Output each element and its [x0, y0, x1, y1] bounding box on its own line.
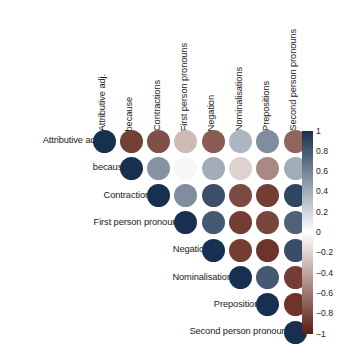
colorbar-tick-2: 0.6: [316, 167, 328, 176]
matrix-cell-1-2: [147, 157, 170, 180]
matrix-cell-0-5: [229, 130, 252, 153]
colorbar-tick-10: −1: [316, 330, 326, 339]
colorbar: [302, 131, 313, 334]
matrix-cell-0-1: [120, 130, 143, 153]
matrix-cell-4-6: [256, 239, 279, 262]
matrix-cell-1-3: [174, 157, 197, 180]
matrix-cell-2-3: [174, 184, 197, 207]
column-header-1: because: [125, 97, 134, 131]
column-header-4: Negation: [207, 95, 216, 131]
correlation-matrix-chart: Attributive adj.becauseContractionsFirst…: [0, 0, 344, 350]
colorbar-tick-9: −0.8: [316, 309, 333, 318]
row-label-7: Second person pronouns: [0, 327, 291, 336]
matrix-cell-0-2: [147, 130, 170, 153]
matrix-cell-0-3: [174, 130, 197, 153]
matrix-cell-5-5: [229, 266, 252, 289]
colorbar-tick-4: 0.2: [316, 208, 328, 217]
matrix-cell-5-6: [256, 266, 279, 289]
column-header-3: First person pronouns: [180, 43, 189, 131]
matrix-cell-4-5: [229, 239, 252, 262]
matrix-cell-2-4: [202, 184, 225, 207]
matrix-cell-6-6: [256, 293, 279, 316]
matrix-cell-3-5: [229, 211, 252, 234]
colorbar-tick-7: −0.4: [316, 269, 333, 278]
matrix-cell-1-6: [256, 157, 279, 180]
row-label-4: Negation: [0, 245, 209, 254]
row-label-1: because: [0, 163, 127, 172]
row-label-5: Nominalisations: [0, 273, 237, 282]
colorbar-tick-8: −0.6: [316, 289, 333, 298]
matrix-cell-4-4: [202, 239, 225, 262]
matrix-cell-1-1: [120, 157, 143, 180]
matrix-cell-0-6: [256, 130, 279, 153]
column-header-6: Prepositions: [262, 81, 271, 131]
row-label-3: First person pronouns: [0, 218, 182, 227]
matrix-cell-3-4: [202, 211, 225, 234]
matrix-cell-1-4: [202, 157, 225, 180]
matrix-cell-1-5: [229, 157, 252, 180]
matrix-cell-2-6: [256, 184, 279, 207]
matrix-cell-2-2: [147, 184, 170, 207]
matrix-cell-3-6: [256, 211, 279, 234]
matrix-cell-0-4: [202, 130, 225, 153]
colorbar-tick-5: 0: [316, 228, 321, 237]
column-header-0: Attributive adj.: [98, 74, 107, 131]
colorbar-tick-3: 0.4: [316, 187, 328, 196]
colorbar-gradient: [302, 131, 313, 334]
matrix-cell-2-5: [229, 184, 252, 207]
colorbar-tick-1: 0.8: [316, 147, 328, 156]
column-header-2: Contractions: [153, 80, 162, 131]
row-label-2: Contractions: [0, 191, 155, 200]
matrix-cell-0-0: [93, 130, 116, 153]
row-label-0: Attributive adj.: [0, 136, 100, 145]
row-label-6: Prepositions: [0, 300, 264, 309]
colorbar-tick-0: 1: [316, 127, 321, 136]
colorbar-tick-6: −0.2: [316, 248, 333, 257]
matrix-cell-3-3: [174, 211, 197, 234]
column-header-5: Nominalisations: [235, 67, 244, 131]
column-header-7: Second person pronouns: [289, 29, 298, 131]
